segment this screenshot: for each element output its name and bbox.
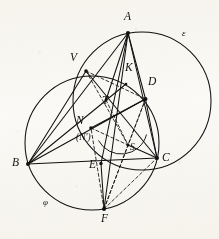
circle-phi — [25, 76, 159, 210]
segment-D-C — [146, 99, 158, 158]
label-point-N: N — [76, 115, 84, 127]
label-point-V: V — [70, 52, 77, 64]
label-point-F: F — [101, 213, 108, 225]
label-circle-phi: φ — [43, 198, 48, 207]
label-point-D: D — [148, 76, 156, 88]
point-marker-F — [102, 207, 106, 211]
point-marker-B — [26, 162, 30, 166]
point-marker-C — [155, 156, 159, 160]
segment-V-D — [86, 71, 146, 99]
dashed-segments-group — [86, 71, 157, 209]
label-point-E: E — [89, 159, 96, 171]
geometry-canvas — [0, 0, 219, 239]
point-marker-A — [126, 31, 130, 35]
label-point-S: S — [130, 143, 135, 153]
point-markers-group — [26, 31, 159, 211]
label-point-N-prime: (N') — [76, 133, 91, 143]
geometry-figure: A B C D E F K N (N') S T V ε φ — [0, 0, 219, 239]
label-point-T: T — [102, 95, 108, 107]
point-marker-N — [89, 126, 93, 130]
label-point-C: C — [162, 152, 170, 164]
circles-group — [25, 32, 211, 210]
segment-F-S — [104, 145, 128, 209]
point-marker-D — [144, 97, 148, 101]
segment-D-S — [128, 99, 146, 145]
label-point-B: B — [12, 157, 19, 169]
label-point-A: A — [124, 11, 131, 23]
segment-F-C — [104, 158, 157, 209]
point-marker-E — [99, 162, 102, 165]
segment-N-S — [91, 128, 128, 145]
point-marker-V — [84, 69, 88, 73]
point-marker-K — [125, 83, 128, 86]
label-circle-epsilon: ε — [182, 29, 186, 38]
segment-A-C — [128, 33, 157, 158]
label-point-K: K — [125, 62, 133, 74]
arc-small-incircle — [99, 135, 147, 155]
